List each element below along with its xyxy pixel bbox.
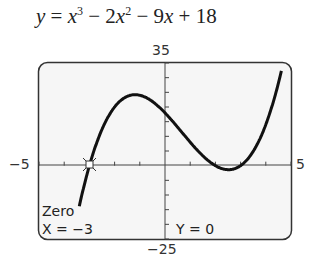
mode-label: Zero <box>42 203 74 219</box>
x-readout: X = −3 <box>42 221 93 237</box>
y-readout: Y = 0 <box>176 221 214 237</box>
